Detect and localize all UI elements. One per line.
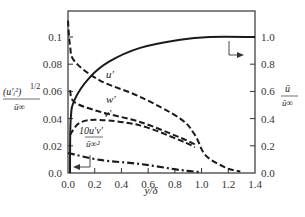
left-y-tick-label: 0.02 <box>43 140 62 152</box>
right-y-tick-label: 1.0 <box>261 31 275 43</box>
series-line <box>70 37 255 173</box>
label-w-prime: w′ <box>106 93 116 105</box>
right-y-tick-label: 0.4 <box>261 113 275 125</box>
right-y-tick-label: 0.8 <box>261 58 275 70</box>
x-tick-label: 1.2 <box>221 178 235 190</box>
right-y-axis-label: ū ū∞ <box>281 83 298 108</box>
label-reynolds-stress-den: ū∞² <box>86 139 100 149</box>
left-y-tick-label: 0.0 <box>48 167 62 179</box>
left-y-tick-label: 0.08 <box>43 58 63 70</box>
series-line <box>68 153 200 172</box>
label-reynolds-stress-num: 10u′v′ <box>79 125 104 136</box>
left-y-tick-label: 0.1 <box>48 31 62 43</box>
right-y-tick-label: 0.6 <box>261 85 275 97</box>
left-y-label-denominator: ū∞ <box>14 102 25 112</box>
label-u-prime: u′ <box>106 68 115 80</box>
right-y-axis-ticks: 0.00.20.40.60.81.0 <box>250 31 275 179</box>
x-tick-label: 1.4 <box>248 178 262 190</box>
data-series <box>68 21 255 173</box>
right-y-tick-label: 0.2 <box>261 140 275 152</box>
x-tick-label: 0.2 <box>88 178 102 190</box>
chart-canvas: 0.00.20.40.60.81.01.21.4 0.00.020.040.06… <box>0 0 305 217</box>
left-y-tick-label: 0.06 <box>43 85 63 97</box>
arrow-right-axis-icon <box>229 41 244 58</box>
right-y-tick-label: 0.0 <box>261 167 275 179</box>
x-tick-label: 0.0 <box>61 178 75 190</box>
left-y-label-exponent: 1/2 <box>30 82 40 91</box>
left-y-label-numerator: (u′ᵢ²) <box>3 86 22 98</box>
left-y-tick-label: 0.04 <box>43 113 63 125</box>
right-y-label-numerator: ū <box>285 83 290 94</box>
series-line <box>70 90 195 144</box>
right-y-label-denominator: ū∞ <box>282 98 293 108</box>
left-y-axis-label: (u′ᵢ²) 1/2 ū∞ <box>3 82 40 112</box>
x-axis-ticks: 0.00.20.40.60.81.01.21.4 <box>61 168 262 190</box>
label-v-prime: v′ <box>104 107 112 119</box>
x-tick-label: 1.0 <box>195 178 209 190</box>
x-tick-label: 0.8 <box>168 178 182 190</box>
x-tick-label: 0.4 <box>115 178 129 190</box>
x-axis-label: y/δ <box>143 184 158 196</box>
